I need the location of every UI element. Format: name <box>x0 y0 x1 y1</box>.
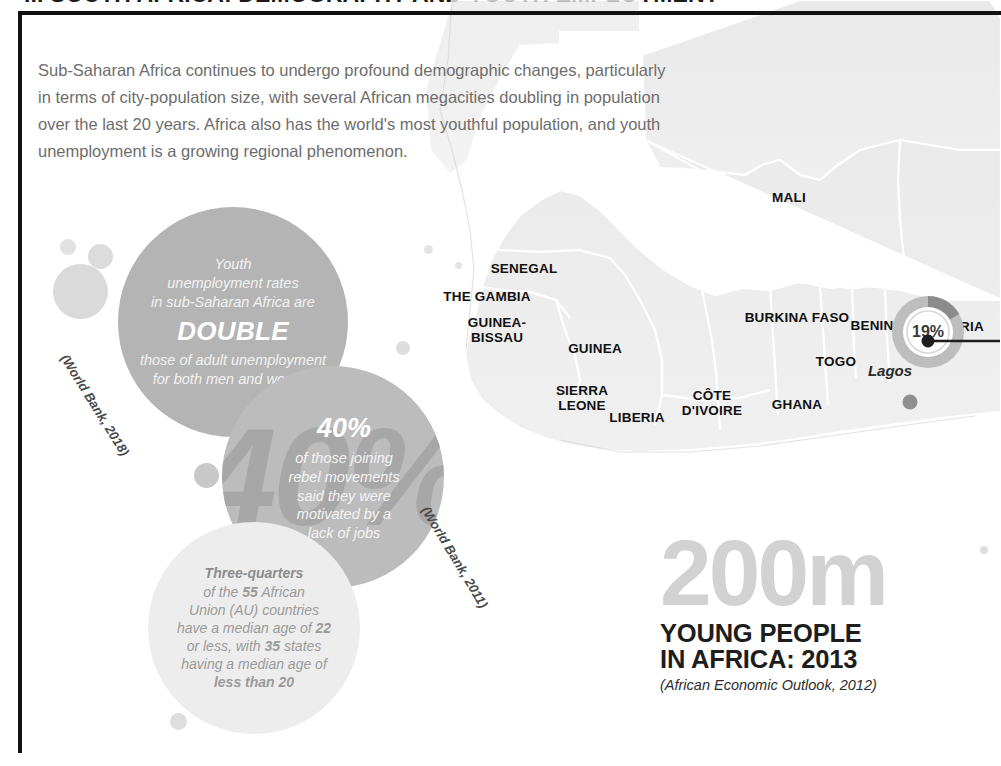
quarters-l3b: 22 <box>315 620 331 636</box>
decorative-circle-8 <box>455 262 462 269</box>
big-stat-source: (African Economic Outlook, 2012) <box>660 677 886 693</box>
map-label-sierra-leone: SIERRA LEONE <box>556 383 608 413</box>
double-line-4: those of adult unemployment <box>140 352 326 368</box>
intro-paragraph: Sub-Saharan Africa continues to undergo … <box>38 57 678 165</box>
stat-bubble-double-text: Youth unemployment rates in sub-Saharan … <box>134 255 332 388</box>
map-label-senegal: SENEGAL <box>491 261 558 276</box>
map-label-ghana: GHANA <box>772 397 823 412</box>
forty-line-4: motivated by a <box>297 506 391 522</box>
decorative-circle-2 <box>88 244 113 269</box>
map-label-guinea: GUINEA <box>568 341 622 356</box>
infographic-page: ... SOUTH AFRICA: DEMOGRAPHY AND YOUTH E… <box>0 0 1001 766</box>
map-label-mali: MALI <box>772 190 806 205</box>
decorative-circle-6 <box>396 341 410 355</box>
quarters-l1b: 55 <box>242 584 258 600</box>
quarters-l3a: have a median age of <box>177 620 316 636</box>
quarters-l5: having a median age of <box>181 656 327 672</box>
forty-line-3: said they were <box>297 488 391 504</box>
quarters-l1c: African <box>258 584 305 600</box>
stat-bubble-three-quarters: Three-quarters of the 55 African Union (… <box>148 522 360 734</box>
double-line-1: Youth <box>214 256 251 272</box>
decorative-circle-5 <box>170 713 187 730</box>
quarters-l1a: of the <box>203 584 242 600</box>
quarters-l4a: or less, with <box>187 638 265 654</box>
decorative-circle-3 <box>53 264 108 319</box>
big-stat-number: 200m <box>660 534 886 614</box>
forty-line-2: rebel movements <box>288 469 399 485</box>
decorative-circle-4 <box>194 463 219 488</box>
quarters-l2: Union (AU) countries <box>189 602 319 618</box>
forty-emphasis: 40% <box>288 411 399 446</box>
double-emphasis: DOUBLE <box>140 315 326 349</box>
map-label-togo: TOGO <box>816 354 856 369</box>
stat-bubble-three-quarters-text: Three-quarters of the 55 African Union (… <box>171 564 337 691</box>
quarters-l6: less than 20 <box>214 674 294 690</box>
double-line-2: unemployment rates <box>167 275 298 291</box>
decorative-circle-9 <box>980 546 988 554</box>
decorative-circle-1 <box>60 239 76 255</box>
double-line-3: in sub-Saharan Africa are <box>151 294 315 310</box>
city-dot-lagos <box>903 395 918 410</box>
quarters-l4c: states <box>280 638 321 654</box>
big-stat-caption: YOUNG PEOPLE IN AFRICA: 2013 <box>660 620 886 672</box>
quarters-l4b: 35 <box>264 638 280 654</box>
stat-bubble-forty-text: 40% of those joining rebel movements sai… <box>282 411 405 543</box>
quarters-lead: Three-quarters <box>177 564 331 582</box>
map-label-guinea-bissau: GUINEA- BISSAU <box>468 315 526 345</box>
marker-pointer-arm <box>920 330 1001 352</box>
map-label-cote-divoire: CÔTE D'IVOIRE <box>682 388 742 418</box>
forty-line-1: of those joining <box>295 450 393 466</box>
decorative-circle-7 <box>424 245 433 254</box>
map-label-the-gambia: THE GAMBIA <box>443 289 531 304</box>
map-label-liberia: LIBERIA <box>609 410 664 425</box>
map-label-burkina-faso: BURKINA FASO <box>745 310 850 325</box>
forty-line-5: lack of jobs <box>308 525 381 541</box>
big-stat-block: 200m YOUNG PEOPLE IN AFRICA: 2013 (Afric… <box>660 534 886 693</box>
